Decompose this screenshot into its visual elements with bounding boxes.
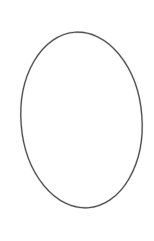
ellipse-drawing	[0, 0, 154, 241]
drawing-canvas: Ellipse outline	[0, 0, 154, 241]
canvas-background	[0, 0, 154, 241]
